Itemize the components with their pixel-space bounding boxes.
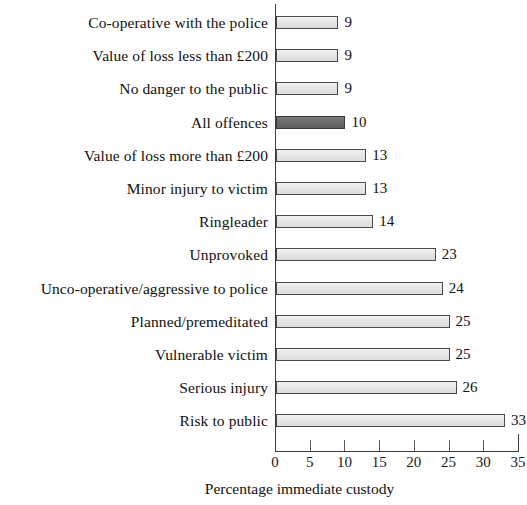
- bar-row: Ringleader14: [0, 214, 527, 230]
- category-label: Minor injury to victim: [127, 180, 268, 197]
- bar-value-label: 24: [449, 279, 464, 297]
- bar: [276, 315, 450, 328]
- category-label: Unprovoked: [190, 246, 269, 263]
- bar: [276, 49, 338, 62]
- bar: [276, 381, 457, 394]
- bar-value-label: 33: [511, 411, 526, 429]
- x-tick-10: [344, 440, 345, 451]
- category-label: Value of loss less than £200: [93, 47, 268, 64]
- bar-value-label: 14: [379, 212, 394, 230]
- bar: [276, 348, 450, 361]
- bar: [276, 414, 505, 427]
- bar-value-label: 26: [463, 378, 478, 396]
- bar-value-label: 9: [344, 46, 352, 64]
- bar-row: Vulnerable victim25: [0, 347, 527, 363]
- category-label: All offences: [191, 114, 268, 131]
- bar: [276, 82, 338, 95]
- bar-value-label: 9: [344, 79, 352, 97]
- category-label: No danger to the public: [119, 80, 268, 97]
- x-axis-right-cap: [518, 434, 519, 452]
- bar-row: Planned/premeditated25: [0, 314, 527, 330]
- bar-highlighted: [276, 116, 345, 129]
- bar-value-label: 13: [372, 146, 387, 164]
- bar-value-label: 25: [456, 312, 471, 330]
- bar-chart: 05101520253035 Co-operative with the pol…: [0, 0, 527, 505]
- bar: [276, 16, 338, 29]
- category-label: Planned/premeditated: [131, 313, 268, 330]
- bar-row: Minor injury to victim13: [0, 181, 527, 197]
- bar-row: Co-operative with the police9: [0, 15, 527, 31]
- bar-value-label: 9: [344, 13, 352, 31]
- bar-value-label: 13: [372, 179, 387, 197]
- bar-row: Unprovoked23: [0, 247, 527, 263]
- bar-value-label: 10: [351, 113, 366, 131]
- category-label: Co-operative with the police: [88, 14, 268, 31]
- category-label: Vulnerable victim: [155, 346, 268, 363]
- plot-area: 05101520253035 Co-operative with the pol…: [0, 0, 527, 460]
- category-label: Value of loss more than £200: [84, 147, 268, 164]
- bar-value-label: 23: [442, 245, 457, 263]
- bar: [276, 215, 373, 228]
- bar: [276, 248, 436, 261]
- category-label: Ringleader: [199, 213, 268, 230]
- bar: [276, 149, 366, 162]
- x-tick-5: [310, 440, 311, 451]
- bar-row: Unco-operative/aggressive to police24: [0, 281, 527, 297]
- x-axis-title: Percentage immediate custody: [0, 479, 527, 498]
- x-tick-20: [414, 440, 415, 451]
- category-label: Risk to public: [180, 412, 268, 429]
- bar-row: Value of loss less than £2009: [0, 48, 527, 64]
- x-axis-line: [275, 451, 519, 452]
- x-axis-title-text: Percentage immediate custody: [205, 480, 394, 497]
- bar-row: Value of loss more than £20013: [0, 148, 527, 164]
- bar-row: No danger to the public9: [0, 81, 527, 97]
- bar: [276, 282, 443, 295]
- category-label: Serious injury: [179, 379, 268, 396]
- x-tick-15: [379, 440, 380, 451]
- bar-row: Serious injury26: [0, 380, 527, 396]
- category-label: Unco-operative/aggressive to police: [41, 280, 268, 297]
- bar-row: All offences10: [0, 115, 527, 131]
- x-tick-30: [483, 440, 484, 451]
- x-tick-25: [449, 440, 450, 451]
- x-tick-label-35: 35: [498, 453, 527, 471]
- bar: [276, 182, 366, 195]
- bar-value-label: 25: [456, 345, 471, 363]
- bar-row: Risk to public33: [0, 413, 527, 429]
